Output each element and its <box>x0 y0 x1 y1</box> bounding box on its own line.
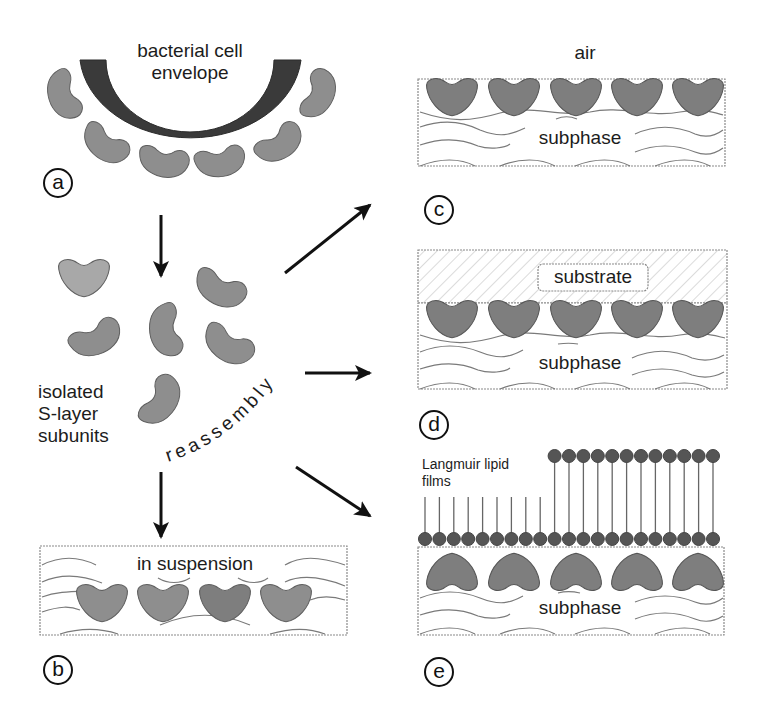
air-label: air <box>555 42 615 64</box>
panel-letter-e: e <box>424 657 454 687</box>
substrate-label: substrate <box>538 266 648 288</box>
panel-letter-b: b <box>43 655 73 685</box>
arrow-to-panel-c <box>285 205 370 273</box>
s-layer-reassembly-diagram: reassembly <box>0 0 763 720</box>
panel-c <box>418 79 725 166</box>
langmuir-films-label: Langmuir lipid films <box>422 456 552 490</box>
panel-b-label: in suspension <box>105 553 285 575</box>
panel-c-subphase-label: subphase <box>520 127 640 149</box>
panel-d-subphase-label: subphase <box>520 352 640 374</box>
isolated-subunits-label: isolated S-layer subunits <box>38 381 148 447</box>
panel-letter-a: a <box>43 168 73 198</box>
langmuir-label-line1: Langmuir lipid <box>422 456 552 473</box>
panel-e-subphase-label: subphase <box>520 597 640 619</box>
arrow-to-panel-e <box>296 467 370 516</box>
isolated-label-line1: isolated <box>38 381 148 403</box>
envelope-label: bacterial cell envelope <box>120 40 260 84</box>
isolated-label-line2: S-layer <box>38 403 148 425</box>
panel-letter-c: c <box>424 195 454 225</box>
reassembly-label: reassembly <box>163 371 279 466</box>
langmuir-label-line2: films <box>422 473 552 490</box>
isolated-label-line3: subunits <box>38 425 148 447</box>
envelope-label-line1: bacterial cell <box>120 40 260 62</box>
envelope-label-line2: envelope <box>120 62 260 84</box>
panel-letter-d: d <box>419 410 449 440</box>
